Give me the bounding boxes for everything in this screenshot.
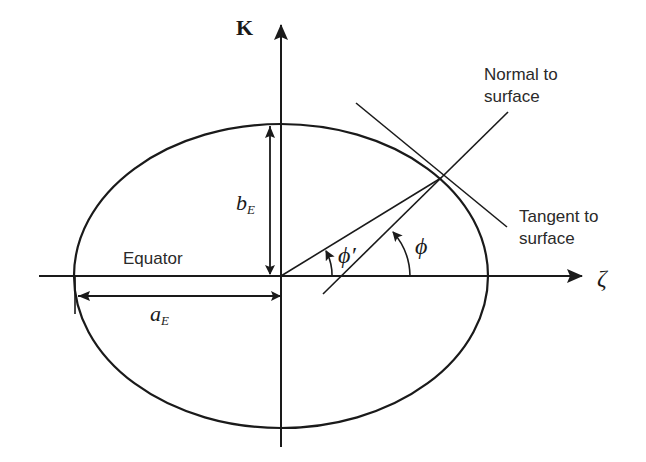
geocentric-radius-line [281,178,441,276]
geocentric-latitude-label: ϕ′ [338,242,356,268]
semi-minor-label: bE [236,190,255,217]
horizontal-axis-label: ζ [597,265,609,291]
geodetic-angle-arc [393,232,410,276]
tangent-line [356,103,507,227]
tangent-line-label: Tangent to surface [519,207,603,248]
equator-label: Equator [123,249,183,268]
ellipsoid-latitude-diagram: K ζ Equator aE bE ϕ′ ϕ Normal to surface… [0,0,646,462]
vertical-axis-label: K [236,15,253,40]
semi-major-label: aE [150,301,169,328]
geocentric-angle-arc [326,251,332,276]
normal-line-label: Normal to surface [484,65,562,106]
geodetic-latitude-label: ϕ [415,233,427,259]
